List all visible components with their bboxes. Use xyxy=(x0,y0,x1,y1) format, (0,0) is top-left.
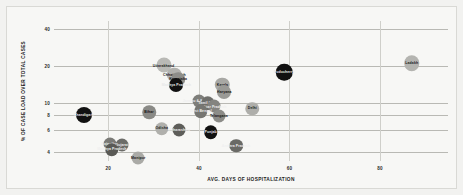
x-gridline xyxy=(289,21,290,161)
scatter-bubble-label: Puducherry xyxy=(274,70,294,74)
scatter-bubble-label: Telangana xyxy=(210,114,228,118)
scatter-bubble-label: Delhi xyxy=(248,107,257,111)
y-axis-tick-label: 8 xyxy=(47,113,50,118)
scatter-bubble-label: Manipur xyxy=(131,156,145,160)
x-axis-tick-label: 60 xyxy=(287,166,293,171)
x-axis-tick-label: 80 xyxy=(377,166,383,171)
scatter-bubble[interactable]: Maharashtra xyxy=(172,123,185,136)
scatter-bubble-label: Odisha xyxy=(156,127,168,131)
x-axis-title: AVG. DAYS OF HOSPITALIZATION xyxy=(207,177,294,182)
scatter-bubble-label: Andhra Pradesh xyxy=(222,144,250,148)
chart-frame: % OF CASE LOAD OVER TOTAL CASES AVG. DAY… xyxy=(6,6,457,189)
y-gridline xyxy=(54,29,448,30)
scatter-bubble[interactable]: West Bengal xyxy=(194,104,208,118)
x-gridline xyxy=(199,21,200,161)
scatter-bubble[interactable]: Punjab xyxy=(204,126,218,140)
y-axis-tick-label: 20 xyxy=(44,63,50,68)
y-axis-tick-label: 4 xyxy=(47,150,50,155)
scatter-bubble-label: Punjab xyxy=(205,130,217,134)
y-axis-tick-label: 6 xyxy=(47,128,50,133)
scatter-chart-figure: % OF CASE LOAD OVER TOTAL CASES AVG. DAY… xyxy=(0,0,463,195)
scatter-bubble-label: Haryana xyxy=(217,90,232,94)
scatter-bubble[interactable]: Haryana xyxy=(217,85,231,99)
y-axis-tick-label: 40 xyxy=(44,26,50,31)
scatter-bubble[interactable]: Bihar xyxy=(142,106,156,120)
plot-area: 46810204020406080LadakhUttarakhandPuduch… xyxy=(54,21,448,161)
x-gridline xyxy=(380,21,381,161)
scatter-bubble-label: Madhya Pradesh xyxy=(162,83,191,87)
scatter-bubble[interactable]: Puducherry xyxy=(276,64,293,81)
scatter-bubble-label: Bihar xyxy=(144,110,153,114)
scatter-bubble[interactable]: Chandigarh xyxy=(76,107,92,123)
x-axis-tick-label: 20 xyxy=(106,166,112,171)
scatter-bubble[interactable]: Madhya Pradesh xyxy=(169,78,183,92)
y-axis-title: % OF CASE LOAD OVER TOTAL CASES xyxy=(21,41,26,141)
scatter-bubble[interactable]: Delhi xyxy=(246,102,260,116)
scatter-bubble[interactable]: Ladakh xyxy=(404,55,420,71)
x-axis-tick-label: 40 xyxy=(196,166,202,171)
scatter-bubble[interactable]: Andhra Pradesh xyxy=(229,139,243,153)
scatter-bubble-label: Chandigarh xyxy=(74,113,94,117)
y-axis-tick-label: 10 xyxy=(44,101,50,106)
y-gridline xyxy=(54,66,448,67)
y-gridline xyxy=(54,130,448,131)
scatter-bubble[interactable]: Odisha xyxy=(155,122,169,136)
scatter-bubble[interactable]: Manipur xyxy=(132,151,145,164)
scatter-bubble[interactable]: Telangana xyxy=(212,109,225,122)
scatter-bubble[interactable]: Madhya Pradesh xyxy=(105,143,119,157)
scatter-bubble-label: Ladakh xyxy=(405,61,418,65)
